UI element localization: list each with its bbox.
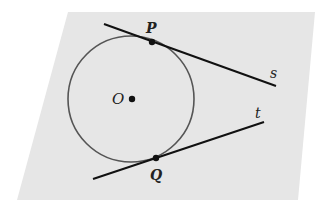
point-o <box>129 96 135 102</box>
label-p: P <box>145 20 157 36</box>
label-s: s <box>270 65 277 81</box>
plane <box>17 12 315 200</box>
point-p <box>149 39 155 45</box>
point-q <box>153 155 159 161</box>
label-q: Q <box>150 167 162 183</box>
label-t: t <box>255 105 261 121</box>
label-o: O <box>112 90 124 108</box>
tangent-lines-diagram: P O Q s t <box>0 0 318 212</box>
